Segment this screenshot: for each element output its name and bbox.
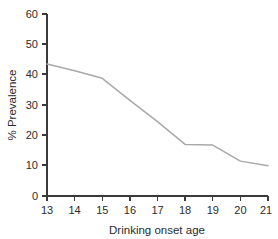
x-tick-label-16: 16 bbox=[124, 204, 136, 216]
y-tick-label-30: 30 bbox=[26, 99, 38, 111]
x-tick-label-14: 14 bbox=[68, 204, 80, 216]
y-tick-label-10: 10 bbox=[26, 159, 38, 171]
x-axis-title: Drinking onset age bbox=[109, 224, 205, 236]
y-axis-title: % Prevalence bbox=[6, 70, 18, 141]
y-tick-label-20: 20 bbox=[26, 129, 38, 141]
x-tick-label-15: 15 bbox=[96, 204, 108, 216]
x-tick-label-13: 13 bbox=[41, 204, 53, 216]
prevalence-line bbox=[47, 64, 268, 166]
line-chart: 60 50 40 30 20 10 0 % Prevalence 13 14 1… bbox=[0, 0, 278, 239]
y-tick-label-60: 60 bbox=[26, 8, 38, 20]
x-tick-label-21: 21 bbox=[260, 204, 272, 216]
x-tick-label-17: 17 bbox=[151, 204, 163, 216]
x-tick-label-19: 19 bbox=[207, 204, 219, 216]
y-axis-group: 60 50 40 30 20 10 0 % Prevalence bbox=[6, 8, 47, 202]
chart-container: 60 50 40 30 20 10 0 % Prevalence 13 14 1… bbox=[0, 0, 278, 239]
y-tick-label-40: 40 bbox=[26, 68, 38, 80]
y-tick-label-0: 0 bbox=[32, 190, 38, 202]
x-tick-label-18: 18 bbox=[179, 204, 191, 216]
x-tick-label-20: 20 bbox=[234, 204, 246, 216]
y-tick-label-50: 50 bbox=[26, 38, 38, 50]
x-axis-group: 13 14 15 16 17 18 19 20 21 Drinking onse… bbox=[41, 196, 272, 236]
data-series-group bbox=[47, 64, 268, 166]
